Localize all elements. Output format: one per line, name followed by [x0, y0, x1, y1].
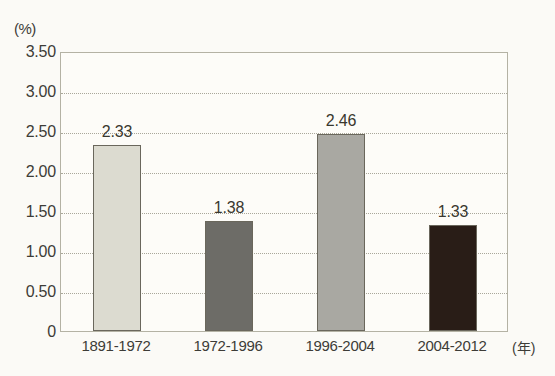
x-axis-category-label: 1972-1996: [168, 337, 288, 354]
y-axis-tick-label: 3.50: [2, 43, 56, 61]
y-axis-unit-label: (%): [14, 20, 36, 37]
bar-value-label: 2.46: [301, 112, 381, 130]
y-axis-tick-label: 0: [2, 323, 56, 341]
y-axis-tick-label: 2.50: [2, 123, 56, 141]
bar-value-label: 2.33: [77, 123, 157, 141]
y-axis-tick-labels: 00.501.001.502.002.503.003.50: [0, 52, 56, 332]
y-axis-tick-label: 2.00: [2, 163, 56, 181]
bar: [93, 145, 141, 331]
y-axis-tick-label: 1.00: [2, 243, 56, 261]
bar: [429, 225, 477, 331]
x-axis-category-label: 1996-2004: [280, 337, 400, 354]
x-axis-category-label: 1891-1972: [56, 337, 176, 354]
gridline: [61, 93, 507, 94]
y-axis-tick-label: 0.50: [2, 283, 56, 301]
bar: [205, 221, 253, 331]
bar-chart-figure: (%) 00.501.001.502.002.503.003.50 2.331.…: [0, 0, 555, 376]
x-axis-unit-label: (年): [512, 337, 535, 357]
bar-value-label: 1.38: [189, 199, 269, 217]
bar-value-label: 1.33: [413, 203, 493, 221]
y-axis-tick-label: 1.50: [2, 203, 56, 221]
bar: [317, 134, 365, 331]
plot-area: 2.331.382.461.33: [60, 52, 508, 332]
y-axis-tick-label: 3.00: [2, 83, 56, 101]
x-axis-category-label: 2004-2012: [392, 337, 512, 354]
